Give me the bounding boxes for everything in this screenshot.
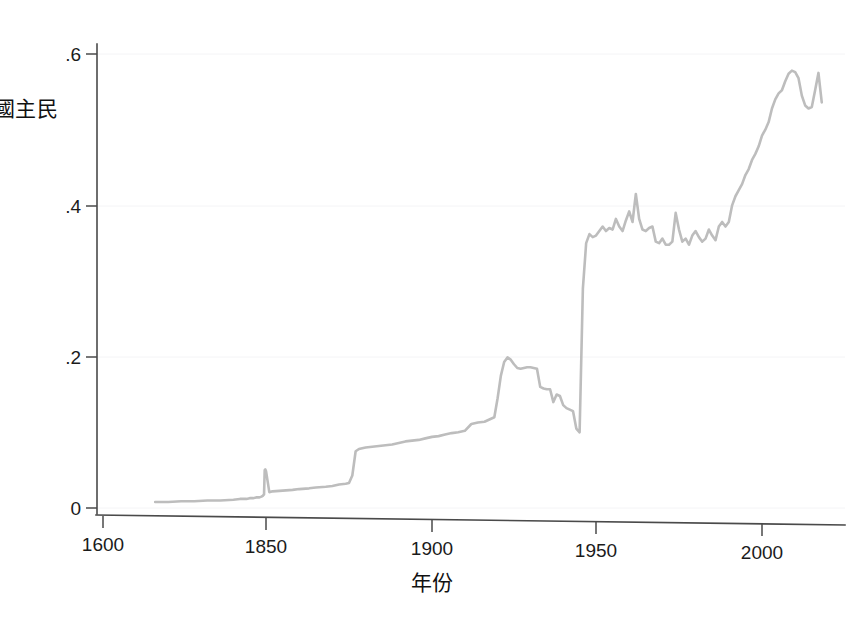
y-tick-label-0: 0 (70, 498, 81, 519)
x-axis: 1600 1850 1900 1950 2000 (82, 515, 845, 563)
x-tick-label-1600: 1600 (82, 534, 124, 555)
democracy-population-share-line-chart: .6 .4 .2 0 1600 1850 1900 1950 2000 年份 (0, 0, 859, 619)
x-tick-label-1850: 1850 (245, 536, 287, 557)
series-line-democracy-share (155, 71, 822, 502)
y-axis-title: 民主國家人口占全球人口的比例 (26, 98, 56, 119)
x-tick-label-1950: 1950 (575, 540, 617, 561)
x-tick-label-2000: 2000 (741, 542, 783, 563)
x-axis-title: 年份 (411, 571, 453, 594)
y-axis-title-char: 國 (0, 98, 13, 119)
y-tick-label-0.4: .4 (65, 196, 81, 217)
y-axis-title-char: 主 (13, 98, 35, 119)
y-axis-title-char: 民 (34, 98, 56, 119)
y-axis: .6 .4 .2 0 (65, 44, 97, 519)
gridlines (97, 54, 845, 508)
x-tick-label-1900: 1900 (411, 538, 453, 559)
x-axis-line (96, 515, 845, 525)
y-tick-label-0.2: .2 (65, 347, 81, 368)
y-tick-label-0.6: .6 (65, 44, 81, 65)
